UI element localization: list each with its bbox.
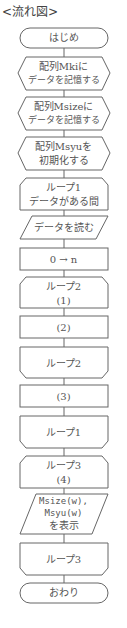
loop3-start-label-line1: ループ3 xyxy=(0,459,127,472)
loop1-start-label-line2: データがある間 xyxy=(0,195,127,208)
loop3-start-label-line2: (4) xyxy=(0,473,127,486)
loop2-end-label: ループ2 xyxy=(0,357,127,370)
prep3-label-line1: 配列Msyuを xyxy=(0,140,127,153)
start-label: はじめ xyxy=(0,31,127,44)
loop1-end-label: ループ1 xyxy=(0,426,127,439)
prep2-label-line2: データを記憶する xyxy=(0,114,127,127)
read-label: データを読む xyxy=(0,221,127,234)
flowchart-diagram xyxy=(0,0,127,628)
blank3-label: (3) xyxy=(0,390,127,403)
loop3-end-label: ループ3 xyxy=(0,553,127,566)
assign-label: 0 → n xyxy=(0,253,127,266)
end-label: おわり xyxy=(0,586,127,599)
loop1-start-label-line1: ループ1 xyxy=(0,181,127,194)
prep3-label-line2: 初期化する xyxy=(0,154,127,167)
loop2-start-label-line1: ループ2 xyxy=(0,280,127,293)
prep1-label-line2: データを記憶する xyxy=(0,74,127,87)
loop2-start-label-line2: (1) xyxy=(0,294,127,307)
prep2-label-line1: 配列Msizeに xyxy=(0,100,127,113)
blank2-label: (2) xyxy=(0,321,127,334)
output-label-line3: を表示 xyxy=(0,519,127,532)
prep1-label-line1: 配列Mkiに xyxy=(0,60,127,73)
